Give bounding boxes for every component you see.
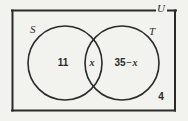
set-t-label: T	[149, 26, 155, 37]
region-value-s-only: 11	[46, 58, 80, 68]
region-value-intersection: x	[84, 58, 100, 68]
region-value-t-only: 35−x	[102, 58, 150, 68]
universal-set-label: U	[157, 3, 165, 14]
venn-diagram-figure: U S T 11 x 35−x 4	[0, 0, 188, 121]
t-only-variable: x	[132, 57, 137, 68]
region-value-outside: 4	[154, 92, 168, 102]
set-s-label: S	[30, 24, 36, 35]
t-only-number: 35	[115, 57, 126, 68]
